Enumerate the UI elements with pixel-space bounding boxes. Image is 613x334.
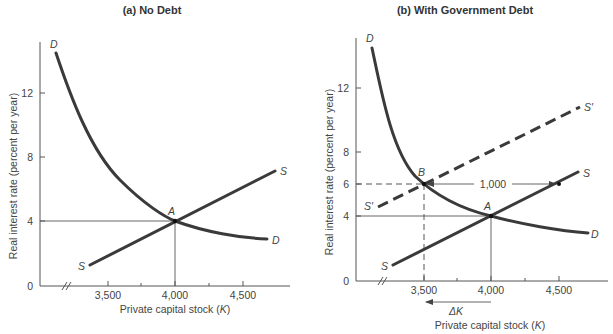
panel-b-label-a: A <box>483 200 491 212</box>
panel-a-ytick-12: 12 <box>21 87 33 99</box>
panel-b-x-axis-label: Private capital stock (K) <box>435 319 545 331</box>
panel-b-y-axis-label: Real interest rate (percent per year) <box>323 89 335 255</box>
panel-a: (a) No Debt 0 4 8 12 3,500 4,000 4,500 P… <box>7 4 290 315</box>
panel-b-ytick-12: 12 <box>337 82 349 94</box>
panel-b-label-d-top: D <box>366 32 374 44</box>
panel-b-shifted-supply-curve <box>378 107 580 207</box>
panel-b-point-b <box>422 182 426 186</box>
panel-b-xtick-3500: 3,500 <box>411 284 437 296</box>
panel-a-ytick-4: 4 <box>27 215 33 227</box>
panel-a-label-s-end: S <box>280 165 287 177</box>
panel-b-ytick-0: 0 <box>343 275 349 287</box>
panel-a-ytick-8: 8 <box>27 151 33 163</box>
panel-b-gap-label: 1,000 <box>480 178 506 190</box>
panel-b-label-d-end: D <box>591 228 599 240</box>
panel-b-ytick-8: 8 <box>343 146 349 158</box>
panel-b-ytick-4: 4 <box>343 210 349 222</box>
panel-a-demand-curve <box>56 53 267 239</box>
panel-a-label-a: A <box>167 205 175 217</box>
panel-a-label-d-end: D <box>272 234 280 246</box>
panel-a-y-axis-label: Real interest rate (percent per year) <box>7 93 19 259</box>
panel-a-label-d-top: D <box>50 38 58 50</box>
panel-b-demand-curve <box>372 48 588 233</box>
panel-a-x-axis-label: Private capital stock (K) <box>120 303 230 315</box>
panel-a-point-a <box>173 219 177 223</box>
panel-a-xtick-3500: 3,500 <box>95 289 121 301</box>
panel-b-title: (b) With Government Debt <box>397 4 534 16</box>
panel-a-supply-curve <box>90 171 275 265</box>
panel-b-label-b: B <box>418 166 425 178</box>
figure-canvas: (a) No Debt 0 4 8 12 3,500 4,000 4,500 P… <box>0 0 613 334</box>
panel-b-label-s-start: S <box>381 260 388 272</box>
panel-a-label-s-start: S <box>78 260 85 272</box>
panel-a-ytick-0: 0 <box>27 280 33 292</box>
panel-b-label-s-prime-end: S′ <box>584 101 594 113</box>
panel-b-point-a <box>489 214 493 218</box>
panel-b-label-s-prime-start: S′ <box>364 200 374 212</box>
panel-b-xtick-4500: 4,500 <box>546 284 572 296</box>
panel-b: (b) With Government Debt 0 4 6 8 12 3,50… <box>323 4 608 331</box>
panel-a-xtick-4000: 4,000 <box>162 289 188 301</box>
panel-b-point-s-at-6 <box>557 182 561 186</box>
panel-b-xtick-4000: 4,000 <box>478 284 504 296</box>
panel-b-ytick-6: 6 <box>343 178 349 190</box>
panel-a-title: (a) No Debt <box>123 4 182 16</box>
panel-b-delta-k-label: ΔK <box>448 305 464 317</box>
panel-b-label-s-end: S <box>583 167 590 179</box>
panel-a-xtick-4500: 4,500 <box>230 289 256 301</box>
